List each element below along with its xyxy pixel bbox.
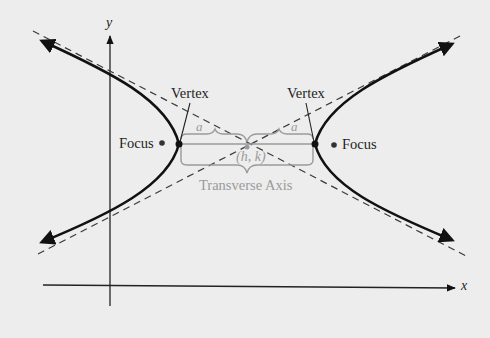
focus-right-label: Focus bbox=[342, 137, 377, 152]
vertex-left-point bbox=[176, 141, 183, 148]
vertex-right-label: Vertex bbox=[287, 86, 325, 101]
brace-a-left bbox=[181, 129, 247, 142]
hyperbola-right-branch bbox=[315, 44, 452, 240]
a-left-label: a bbox=[196, 120, 203, 133]
brace-a-right bbox=[247, 129, 313, 142]
coordinate-axes bbox=[43, 36, 455, 306]
vertex-left-label: Vertex bbox=[171, 86, 209, 101]
vertex-right-leader bbox=[306, 103, 314, 142]
center-label: (h, k) bbox=[236, 150, 266, 164]
a-right-label: a bbox=[291, 120, 298, 133]
x-axis-label: x bbox=[461, 279, 467, 293]
focus-left-label: Focus bbox=[119, 136, 154, 151]
transverse-axis-label: Transverse Axis bbox=[199, 178, 292, 193]
y-axis-label: y bbox=[106, 16, 112, 30]
focus-left-point bbox=[159, 140, 165, 146]
hyperbola-diagram: y x Vertex Vertex Focus Focus a a (h, k)… bbox=[0, 0, 490, 338]
vertex-right-point bbox=[312, 141, 319, 148]
x-axis bbox=[43, 285, 455, 288]
diagram-graphics bbox=[0, 0, 490, 338]
vertex-left-leader bbox=[180, 103, 190, 142]
focus-right-point bbox=[331, 142, 337, 148]
